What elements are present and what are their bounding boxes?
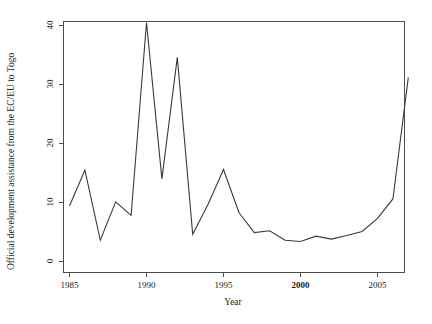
x-tick-label-2000: 2000 — [292, 280, 311, 290]
x-tick-label-2005: 2005 — [369, 280, 388, 290]
line-chart: Official development assistance from the… — [0, 0, 432, 324]
y-tick-label-40: 40 — [45, 20, 55, 30]
data-line-series — [70, 23, 409, 242]
x-tick-label-1990: 1990 — [138, 280, 157, 290]
x-axis-ticks: 1985 1990 1995 2000 2005 — [61, 273, 388, 291]
y-tick-label-30: 30 — [45, 79, 55, 89]
y-axis-ticks: 0 10 20 30 40 — [45, 20, 64, 263]
y-tick-label-20: 20 — [45, 138, 55, 148]
x-tick-label-1985: 1985 — [61, 280, 80, 290]
x-axis-title: Year — [224, 297, 242, 307]
y-tick-label-10: 10 — [45, 197, 55, 207]
y-tick-label-0: 0 — [45, 258, 55, 263]
plot-frame — [64, 22, 405, 273]
x-tick-label-1995: 1995 — [215, 280, 234, 290]
chart-figure: Official development assistance from the… — [0, 0, 432, 324]
y-axis-title: Official development assistance from the… — [6, 53, 16, 270]
